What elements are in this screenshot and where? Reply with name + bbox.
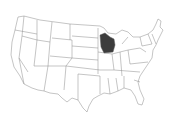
us-outline (11, 16, 163, 112)
us-map: United States map (0, 0, 179, 124)
us-map-svg (0, 0, 179, 124)
